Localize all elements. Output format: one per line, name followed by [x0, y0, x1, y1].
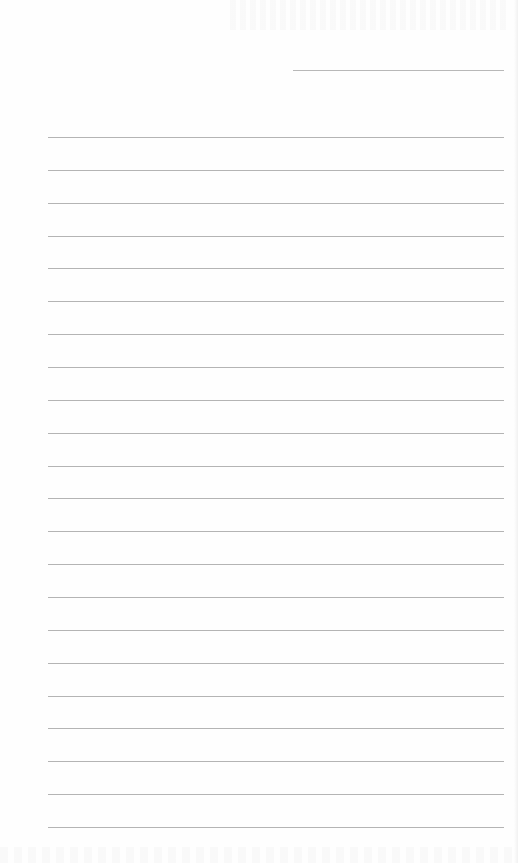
bleed-through-text-bottom	[0, 847, 518, 863]
ruled-line	[48, 531, 504, 532]
ruled-line	[48, 466, 504, 467]
ruled-line	[48, 301, 504, 302]
ruled-line	[48, 236, 504, 237]
ruled-line	[48, 728, 504, 729]
page-edge-shadow	[514, 0, 518, 863]
ruled-line	[48, 498, 504, 499]
ruled-line	[48, 433, 504, 434]
notebook-page	[0, 0, 518, 863]
ruled-line	[48, 203, 504, 204]
bleed-through-text-top	[230, 0, 510, 30]
ruled-line	[48, 334, 504, 335]
ruled-line	[48, 630, 504, 631]
ruled-line	[48, 400, 504, 401]
ruled-line	[48, 597, 504, 598]
header-date-line	[293, 70, 504, 71]
ruled-line	[48, 564, 504, 565]
ruled-line	[48, 170, 504, 171]
ruled-line	[48, 268, 504, 269]
ruled-line	[48, 663, 504, 664]
ruled-line	[48, 696, 504, 697]
ruled-line	[48, 367, 504, 368]
ruled-line	[48, 761, 504, 762]
ruled-line	[48, 827, 504, 828]
ruled-line	[48, 794, 504, 795]
ruled-line	[48, 137, 504, 138]
